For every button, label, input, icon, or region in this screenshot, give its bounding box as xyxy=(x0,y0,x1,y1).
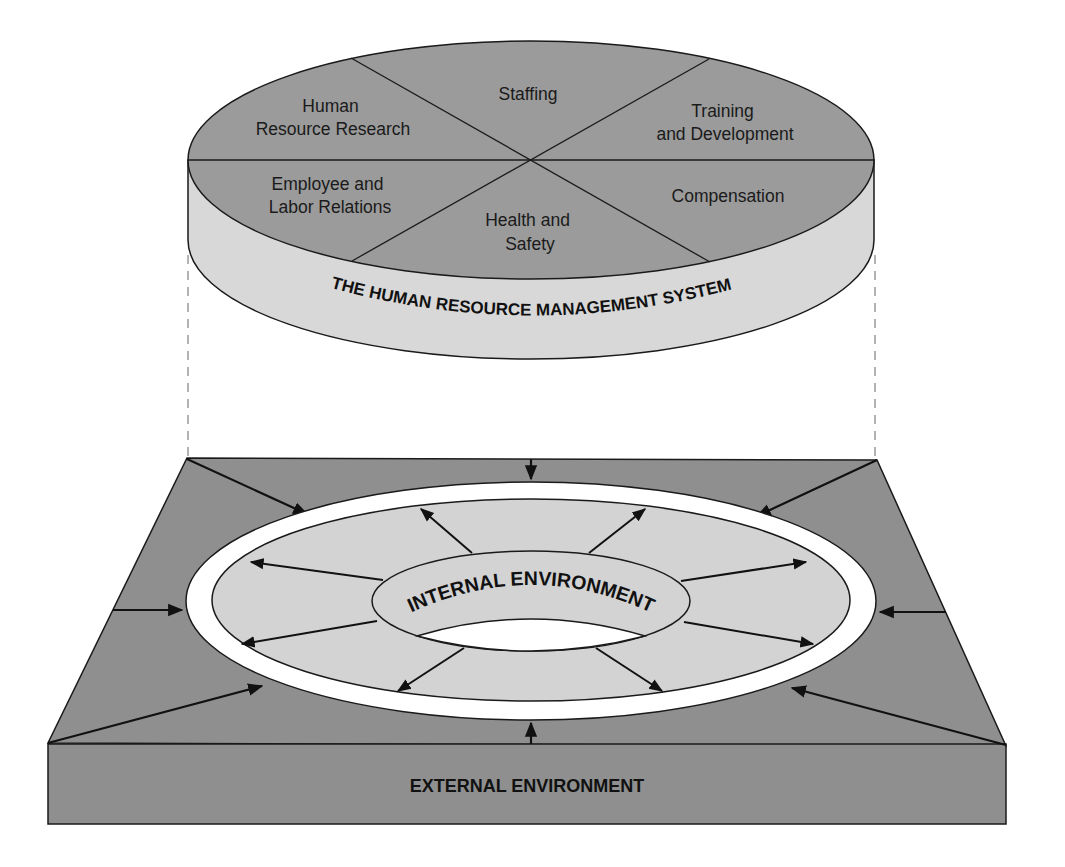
hrm-diagram: INTERNAL ENVIRONMENT EXTERNAL ENVIRONMEN… xyxy=(0,0,1065,867)
segment-compensation: Compensation xyxy=(672,186,785,206)
internal-environment-core: INTERNAL ENVIRONMENT xyxy=(372,551,690,651)
segment-staffing: Staffing xyxy=(498,84,557,104)
external-environment-label: EXTERNAL ENVIRONMENT xyxy=(410,776,645,796)
hrm-system-disc: Staffing Training and Development Compen… xyxy=(188,41,874,359)
